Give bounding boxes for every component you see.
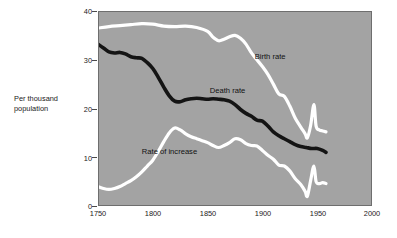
x-tick-label-1750: 1750 [78,209,118,218]
plot-canvas [98,11,372,206]
plot-area: Birth rate Death rate Rate of increase [98,11,372,206]
y-tick-label-30: 30 [66,56,92,65]
y-tick-mark-40 [92,11,97,12]
y-tick-mark-20 [92,109,97,110]
y-tick-mark-30 [92,60,97,61]
series-label-death-rate: Death rate [210,86,245,95]
series-label-birth-rate: Birth rate [255,52,286,61]
plot-background [98,11,372,206]
y-tick-label-20: 20 [66,105,92,114]
y-tick-mark-0 [92,206,97,207]
x-axis-ticks: 1750 1800 1850 1900 1950 2000 [0,209,397,225]
y-axis-ticks: 40 30 20 10 0 [62,0,92,238]
population-rates-chart: Per thousand population 40 30 20 10 0 Bi… [0,0,397,238]
x-tick-label-1850: 1850 [188,209,228,218]
x-tick-label-1800: 1800 [133,209,173,218]
y-tick-label-10: 10 [66,154,92,163]
x-tick-label-1900: 1900 [243,209,283,218]
y-tick-mark-10 [92,157,97,158]
x-tick-label-1950: 1950 [298,209,338,218]
y-tick-label-40: 40 [66,7,92,16]
x-tick-label-2000: 2000 [352,209,392,218]
series-label-rate-of-increase: Rate of increase [142,147,197,156]
